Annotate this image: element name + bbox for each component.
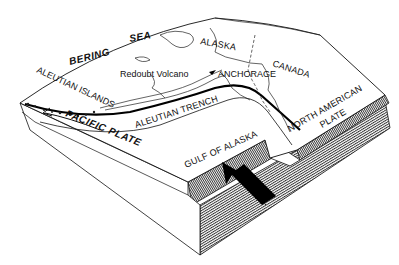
redoubt-volcano-label: Redoubt Volcano [120,69,189,79]
diagram-canvas: BERING SEA ALASKA CANADA ALEUTIAN ISLAND… [0,0,399,265]
subduction-block-diagram: BERING SEA ALASKA CANADA ALEUTIAN ISLAND… [0,0,399,265]
anchorage-label: ANCHORAGE [218,69,276,79]
